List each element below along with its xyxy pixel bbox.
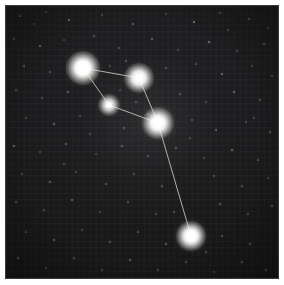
constellation-star-1 [66, 51, 100, 85]
constellation-star-4 [142, 107, 174, 139]
constellation-line [158, 123, 191, 236]
constellation-lines-layer [6, 6, 278, 278]
constellation-line-group [83, 68, 191, 236]
constellation-star-5 [176, 221, 206, 251]
constellation-star-2 [124, 63, 154, 93]
star-chart-image [0, 0, 284, 285]
image-white-frame [0, 0, 284, 285]
constellation-star-3 [98, 94, 120, 116]
sky-field-panel [5, 5, 279, 279]
